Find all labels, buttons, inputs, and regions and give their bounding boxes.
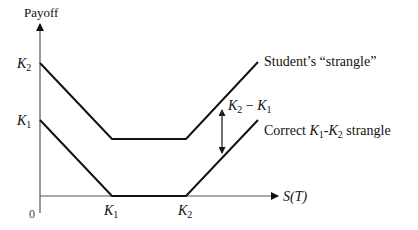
student-strangle-label: Student’s “strangle” xyxy=(264,54,376,69)
origin-label: 0 xyxy=(29,207,35,221)
correct-strangle-label: Correct K1-K2 strangle xyxy=(264,123,391,140)
x-axis-label: S(T) xyxy=(283,189,307,205)
y-tick-k1: K1 xyxy=(16,113,31,130)
strangle-payoff-diagram: Payoff 0 K2 K1 K1 K2 S(T) Student’s “str… xyxy=(0,0,418,230)
student-strangle-line xyxy=(40,62,258,139)
x-tick-k2: K2 xyxy=(177,203,192,220)
x-tick-k1: K1 xyxy=(103,203,118,220)
gap-label: K2 − K1 xyxy=(227,98,272,115)
correct-strangle-line xyxy=(40,120,258,196)
y-tick-k2: K2 xyxy=(16,56,31,73)
y-axis-label: Payoff xyxy=(24,5,59,20)
